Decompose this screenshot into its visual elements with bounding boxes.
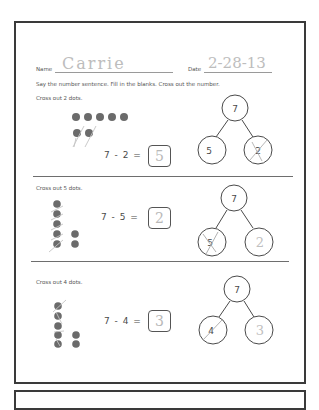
- problem-3-bond-whole: 7: [234, 285, 240, 295]
- problem-1-bond-left: 5: [206, 146, 212, 156]
- problem-3-bond-right: 3: [256, 323, 264, 338]
- problem-2-bond-whole: 7: [231, 194, 237, 204]
- problem-1-bond-whole: 7: [232, 104, 238, 114]
- problem-3-dots: [54, 302, 80, 348]
- problem-2-bond-right: 2: [256, 235, 264, 250]
- problem-2-dots: [53, 200, 79, 248]
